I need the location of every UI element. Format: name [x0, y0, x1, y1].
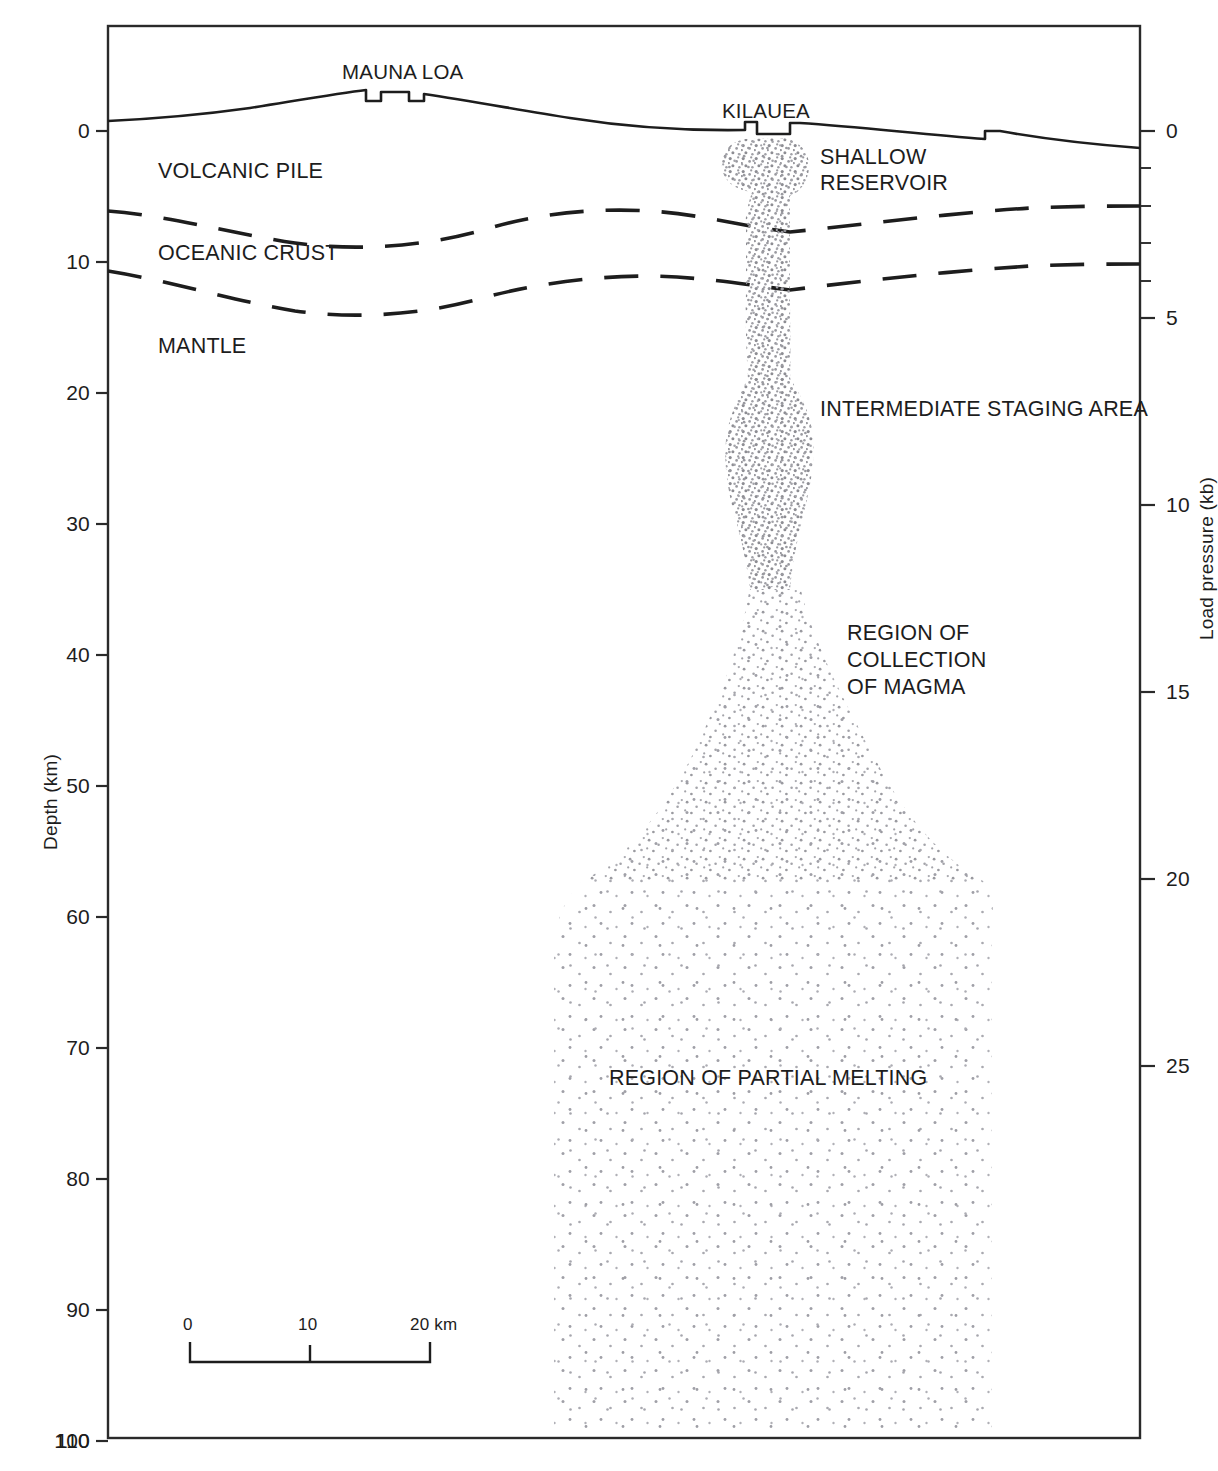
- depth-tick-10: 10: [40, 250, 90, 274]
- label-collection-line3: OF MAGMA: [847, 674, 966, 701]
- depth-tick-110: 110: [30, 1429, 90, 1453]
- depth-tick-0: 0: [40, 119, 90, 143]
- scale-label-20km: 20 km: [410, 1315, 457, 1335]
- shallow-reservoir-stipple: [700, 130, 830, 390]
- scale-label-0: 0: [183, 1315, 193, 1335]
- label-oceanic-crust: OCEANIC CRUST: [158, 240, 339, 267]
- partial-melting-stipple: [545, 870, 1005, 1440]
- pressure-tick-0: 0: [1166, 119, 1178, 143]
- label-mauna-loa: MAUNA LOA: [342, 60, 463, 84]
- pressure-tick-10: 10: [1166, 493, 1190, 517]
- scale-label-10: 10: [298, 1315, 317, 1335]
- intermediate-staging-stipple: [700, 370, 840, 600]
- label-mantle: MANTLE: [158, 333, 246, 360]
- pressure-tick-20: 20: [1166, 867, 1190, 891]
- depth-tick-60: 60: [40, 905, 90, 929]
- label-region-of-partial-melting: REGION OF PARTIAL MELTING: [609, 1065, 927, 1092]
- depth-tick-70: 70: [40, 1036, 90, 1060]
- label-intermediate-staging-area: INTERMEDIATE STAGING AREA: [820, 396, 1148, 423]
- pressure-tick-5: 5: [1166, 306, 1178, 330]
- depth-tick-20: 20: [40, 381, 90, 405]
- label-shallow-reservoir-line1: SHALLOW: [820, 144, 927, 171]
- axis-title-load-pressure: Load pressure (kb): [1196, 477, 1218, 640]
- label-shallow-reservoir-line2: RESERVOIR: [820, 170, 948, 197]
- label-collection-line1: REGION OF: [847, 620, 969, 647]
- pressure-tick-15: 15: [1166, 680, 1190, 704]
- label-collection-line2: COLLECTION: [847, 647, 986, 674]
- depth-tick-40: 40: [40, 643, 90, 667]
- depth-tick-90: 90: [40, 1298, 90, 1322]
- label-kilauea: KILAUEA: [722, 99, 810, 123]
- pressure-tick-25: 25: [1166, 1054, 1190, 1078]
- depth-tick-30: 30: [40, 512, 90, 536]
- label-volcanic-pile: VOLCANIC PILE: [158, 158, 323, 185]
- depth-tick-80: 80: [40, 1167, 90, 1191]
- axis-title-depth: Depth (km): [40, 754, 62, 850]
